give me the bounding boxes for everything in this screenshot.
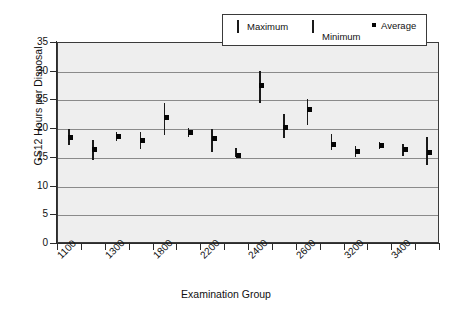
y-axis-tick-label: 15 — [8, 152, 48, 162]
average-marker — [259, 83, 264, 88]
legend-label-average: Average — [381, 20, 416, 31]
gridline — [58, 158, 438, 159]
x-axis-title: Examination Group — [0, 288, 452, 300]
x-axis-tick — [415, 244, 416, 250]
legend-maximum-icon — [237, 20, 239, 33]
y-axis-tick-label: 10 — [8, 181, 48, 191]
average-marker — [212, 136, 217, 141]
y-axis-tick — [50, 243, 57, 244]
average-marker — [116, 134, 121, 139]
average-marker — [379, 143, 384, 148]
y-axis-tick — [50, 186, 57, 187]
y-axis-tick-label: 20 — [8, 123, 48, 133]
average-marker — [307, 107, 312, 112]
y-axis-tick — [50, 128, 57, 129]
y-axis-tick-label: 0 — [8, 238, 48, 248]
y-axis-tick — [50, 214, 57, 215]
gridline — [58, 215, 438, 216]
x-axis-tick — [439, 244, 440, 250]
gridline — [58, 129, 438, 130]
average-marker — [403, 147, 408, 152]
average-marker — [283, 125, 288, 130]
legend-label-maximum: Maximum — [247, 21, 288, 32]
average-marker — [68, 135, 73, 140]
chart-container: GS12 Hours per Disposal Examination Grou… — [0, 0, 452, 316]
x-axis-tick — [272, 244, 273, 250]
chart-legend: Maximum Minimum Average — [222, 14, 427, 46]
x-axis-tick — [224, 244, 225, 250]
average-marker — [236, 153, 241, 158]
y-axis-tick-label: 5 — [8, 209, 48, 219]
y-axis-tick — [50, 157, 57, 158]
average-marker — [92, 147, 97, 152]
y-axis-tick-label: 25 — [8, 94, 48, 104]
y-axis-tick — [50, 71, 57, 72]
y-axis-tick-label: 35 — [8, 37, 48, 47]
gridline — [58, 187, 438, 188]
x-axis-tick — [176, 244, 177, 250]
x-axis-tick — [129, 244, 130, 250]
average-marker — [355, 149, 360, 154]
y-axis-tick — [50, 99, 57, 100]
x-axis-tick — [81, 244, 82, 250]
legend-label-minimum: Minimum — [322, 31, 361, 42]
gridline — [58, 72, 438, 73]
x-axis-tick — [320, 244, 321, 250]
average-marker — [188, 130, 193, 135]
average-marker — [331, 142, 336, 147]
y-axis-tick — [50, 42, 57, 43]
x-axis-tick — [367, 244, 368, 250]
legend-average-icon — [372, 23, 376, 27]
legend-minimum-icon — [312, 20, 314, 33]
average-marker — [140, 138, 145, 143]
y-axis-tick-label: 30 — [8, 66, 48, 76]
average-marker — [427, 150, 432, 155]
gridline — [58, 100, 438, 101]
average-marker — [164, 115, 169, 120]
